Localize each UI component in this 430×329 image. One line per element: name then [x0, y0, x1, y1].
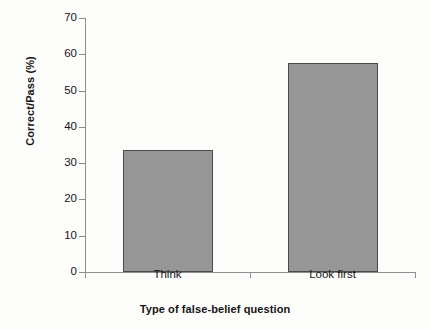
x-axis-title: Type of false-belief question [0, 303, 430, 315]
bar [288, 63, 378, 272]
bar [123, 150, 213, 272]
y-axis-tick [79, 127, 85, 128]
y-axis-line [85, 18, 86, 272]
bar-chart-figure: Correct/Pass (%) 010203040506070 ThinkLo… [0, 0, 430, 329]
y-axis-tick-label: 40 [64, 121, 77, 133]
y-axis-tick [79, 18, 85, 19]
x-axis-tick [415, 272, 416, 278]
y-axis-tick [79, 91, 85, 92]
y-axis-tick-label: 20 [64, 194, 77, 206]
y-axis-tick [79, 54, 85, 55]
y-axis-tick-label: 10 [64, 230, 77, 242]
y-axis-tick-label: 30 [64, 157, 77, 169]
x-axis-tick [250, 272, 251, 278]
y-axis-tick-label: 50 [64, 85, 77, 97]
y-axis-tick-label: 70 [64, 12, 77, 24]
x-axis-category-label: Look first [309, 268, 356, 280]
y-axis-tick [79, 236, 85, 237]
y-axis-tick-label: 0 [71, 266, 77, 278]
x-axis-tick [85, 272, 86, 278]
y-axis-title: Correct/Pass (%) [24, 11, 36, 191]
y-axis-tick [79, 199, 85, 200]
plot-area: 010203040506070 [85, 18, 415, 272]
x-axis-category-label: Think [153, 268, 181, 280]
y-axis-tick-label: 60 [64, 49, 77, 61]
y-axis-tick [79, 163, 85, 164]
